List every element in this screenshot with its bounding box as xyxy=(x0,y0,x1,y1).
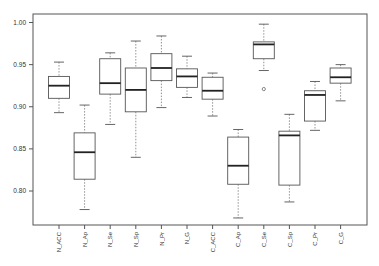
x-tick-label: N_Sp xyxy=(133,231,139,247)
x-tick-label: N_Ap xyxy=(82,231,88,247)
iqr-box xyxy=(228,137,249,184)
iqr-box xyxy=(100,59,121,94)
box-plot-chart: 0.800.850.900.951.00N_ACCN_ApN_SeN_SpN_P… xyxy=(0,0,379,266)
x-tick-label: C_G xyxy=(338,232,344,245)
iqr-box xyxy=(202,77,223,99)
y-tick-label: 0.80 xyxy=(13,187,26,194)
y-tick-label: 0.90 xyxy=(13,103,26,110)
box-n-sp xyxy=(125,41,146,157)
iqr-box xyxy=(177,69,198,88)
outlier-point xyxy=(262,87,265,90)
plot-area: 0.800.850.900.951.00N_ACCN_ApN_SeN_SpN_P… xyxy=(0,0,379,266)
box-n-se xyxy=(100,53,121,125)
x-tick-label: N_ACC xyxy=(56,231,62,252)
box-n-ap xyxy=(74,105,95,209)
x-tick-label: C_ACC xyxy=(210,231,216,252)
box-c-acc xyxy=(202,73,223,116)
box-n-pr xyxy=(151,36,172,108)
x-tick-label: C_Ap xyxy=(235,231,241,247)
y-tick-label: 0.95 xyxy=(13,61,26,68)
box-c-g xyxy=(330,65,351,101)
iqr-box xyxy=(330,68,351,83)
box-n-acc xyxy=(49,62,70,113)
x-tick-label: N_G xyxy=(184,232,190,245)
x-tick-label: C_Se xyxy=(261,231,267,247)
x-tick-label: N_Se xyxy=(107,231,113,247)
y-tick-label: 0.85 xyxy=(13,145,26,152)
x-tick-label: N_Pr xyxy=(159,232,165,246)
y-tick-label: 1.00 xyxy=(13,19,26,26)
box-c-ap xyxy=(228,129,249,217)
box-c-sp xyxy=(279,114,300,202)
box-n-g xyxy=(177,56,198,97)
iqr-box xyxy=(49,76,70,98)
x-tick-label: C_Pr xyxy=(312,232,318,246)
box-c-se xyxy=(253,24,274,90)
iqr-box xyxy=(74,133,95,179)
iqr-box xyxy=(279,131,300,185)
x-tick-label: C_Sp xyxy=(287,231,293,247)
box-c-pr xyxy=(305,81,326,130)
